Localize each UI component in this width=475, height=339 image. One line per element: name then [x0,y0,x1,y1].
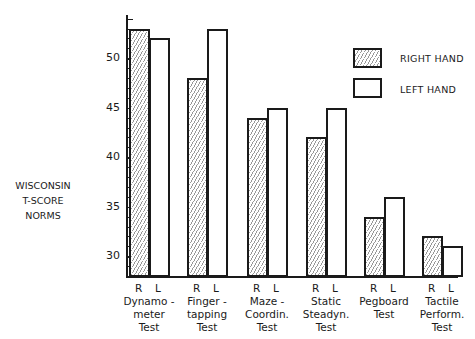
category-label-line: Test [410,321,474,334]
bar-right-hand [422,236,443,277]
category-label-line: Coordin. [235,308,299,321]
legend-swatch-left-hand [353,78,382,98]
bar-hand-label: R [312,282,319,294]
legend-swatch-right-hand [353,48,382,68]
category-label-line: Test [175,321,239,334]
category-label-line: tapping [175,308,239,321]
y-axis-label: WISCONSIN T-SCORE NORMS [6,178,80,223]
category-label-line: Pegboard [352,295,416,308]
y-label-line-1: WISCONSIN [6,178,80,193]
x-axis [126,276,458,278]
category-label-line: Tactile [410,295,474,308]
bar-right-hand [129,29,150,278]
y-label-line-2: T-SCORE [6,193,80,208]
bar-hand-label: R [135,282,142,294]
category-label-line: Test [352,308,416,321]
legend-label-left-hand: LEFT HAND [400,84,456,95]
bar-right-hand [187,78,208,277]
bar-hand-label: R [370,282,377,294]
bar-hand-label: L [155,282,161,294]
category-label-line: Perform. [410,308,474,321]
category-label-line: Test [235,321,299,334]
y-label-line-3: NORMS [6,208,80,223]
bar-left-hand [267,108,288,277]
category-label-line: Test [294,321,358,334]
y-tick-label: 45 [98,101,120,114]
bar-hand-label: L [332,282,338,294]
category-label: Finger -tappingTest [175,295,239,334]
bar-right-hand [364,217,385,277]
category-label: Maze -Coordin.Test [235,295,299,334]
category-label: TactilePerform.Test [410,295,474,334]
bar-left-hand [207,29,228,278]
y-tick-label: 50 [98,51,120,64]
bar-hand-label: R [253,282,260,294]
category-label-line: Static [294,295,358,308]
bar-left-hand [149,38,170,277]
bar-hand-label: L [213,282,219,294]
bar-hand-label: R [428,282,435,294]
category-label-line: Steadyn. [294,308,358,321]
bar-left-hand [442,246,463,277]
bar-hand-label: R [193,282,200,294]
category-label-line: Test [117,321,181,334]
legend-label-right-hand: RIGHT HAND [400,53,464,64]
bar-left-hand [384,197,405,277]
category-label: Dynamo -meterTest [117,295,181,334]
bar-right-hand [306,137,327,277]
y-minor-tick [128,19,133,20]
category-label: PegboardTest [352,295,416,321]
category-label: StaticSteadyn.Test [294,295,358,334]
y-tick-label: 30 [98,249,120,262]
y-axis [126,15,128,277]
category-label-line: Dynamo - [117,295,181,308]
category-label-line: Maze - [235,295,299,308]
y-tick-label: 35 [98,200,120,213]
bar-hand-label: L [273,282,279,294]
y-tick-label: 40 [98,150,120,163]
bar-left-hand [326,108,347,277]
bar-hand-label: L [390,282,396,294]
bar-hand-label: L [448,282,454,294]
bar-right-hand [247,118,268,277]
category-label-line: meter [117,308,181,321]
category-label-line: Finger - [175,295,239,308]
